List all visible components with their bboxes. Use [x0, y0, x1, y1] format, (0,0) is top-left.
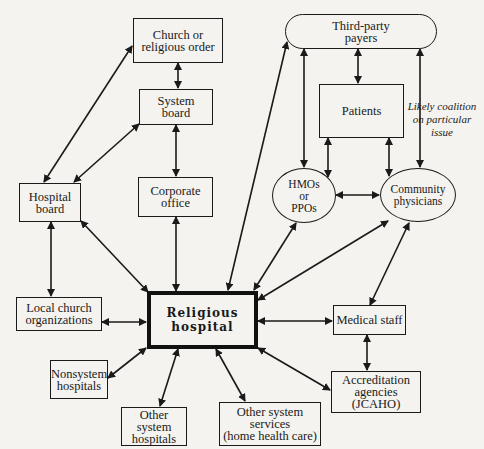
corporate-office-node: Corporate office [138, 177, 213, 217]
nonsystem-hospitals-node: Nonsystem hospitals [50, 360, 108, 399]
accreditation-agencies-node: Accreditation agencies (JCAHO) [331, 371, 421, 413]
hospital-board-node: Hospital board [19, 183, 81, 222]
other-system-services-node: Other system services (home health care) [219, 402, 321, 446]
local-church-organizations-node: Local church organizations [16, 297, 102, 331]
system-board-node: System board [139, 89, 213, 125]
medical-staff-node: Medical staff [333, 305, 406, 335]
patients-node: Patients [319, 84, 404, 138]
other-system-hospitals-node: Other system hospitals [121, 407, 187, 446]
hmos-ppos-node: HMOs or PPOs [272, 168, 336, 223]
religious-hospital-node: Religious hospital [147, 291, 258, 349]
church-religious-order-node: Church or religious order [133, 18, 223, 63]
coalition-annotation: Likely coalition on particular issue [405, 100, 479, 139]
third-party-payers-node: Third-party payers [285, 14, 437, 49]
community-physicians-node: Community physicians [380, 168, 456, 222]
